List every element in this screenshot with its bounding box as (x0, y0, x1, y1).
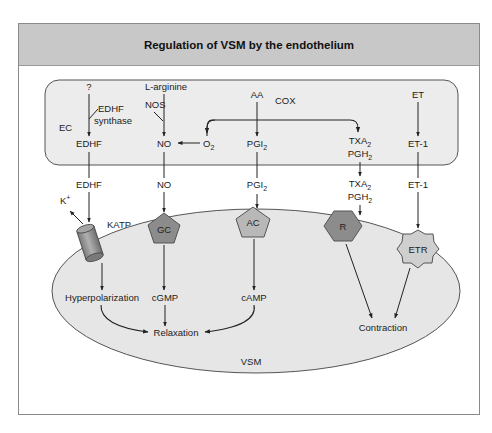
ac-label: AC (246, 217, 259, 228)
cgmp: cGMP (152, 292, 178, 303)
potassium-ion: K+ (60, 194, 70, 206)
gc-label: GC (157, 224, 171, 235)
unknown-precursor: ? (86, 81, 91, 92)
mediator-pgh2: PGH2 (348, 191, 373, 204)
vsm-label: VSM (241, 356, 262, 367)
ec-et1: ET-1 (408, 138, 428, 149)
relaxation: Relaxation (154, 327, 199, 338)
aa: AA (251, 89, 264, 100)
pathway-diagram: EC ? EDHF synthase EDHF L-arginine NOS N… (0, 0, 492, 433)
edhf-synthase-label-1: EDHF (98, 103, 124, 114)
ec-label: EC (59, 122, 72, 133)
etr-label: ETR (409, 244, 428, 255)
contraction: Contraction (359, 322, 408, 333)
r-label: R (340, 221, 347, 232)
ec-no: NO (157, 138, 171, 149)
mediator-edhf: EDHF (76, 179, 102, 190)
et: ET (412, 89, 424, 100)
ec-edhf: EDHF (76, 138, 102, 149)
nos-label: NOS (145, 99, 166, 110)
katp-label: KATP (107, 219, 131, 230)
edhf-synthase-label-2: synthase (94, 115, 132, 126)
hyperpolarization: Hyperpolarization (65, 292, 139, 303)
mediator-txa2: TXA2 (349, 178, 371, 191)
l-arginine: L-arginine (145, 81, 187, 92)
mediator-et1: ET-1 (408, 179, 428, 190)
cox-label: COX (275, 95, 296, 106)
mediator-pgi2: PGI2 (247, 179, 267, 192)
mediator-no: NO (157, 179, 171, 190)
camp: cAMP (241, 292, 266, 303)
